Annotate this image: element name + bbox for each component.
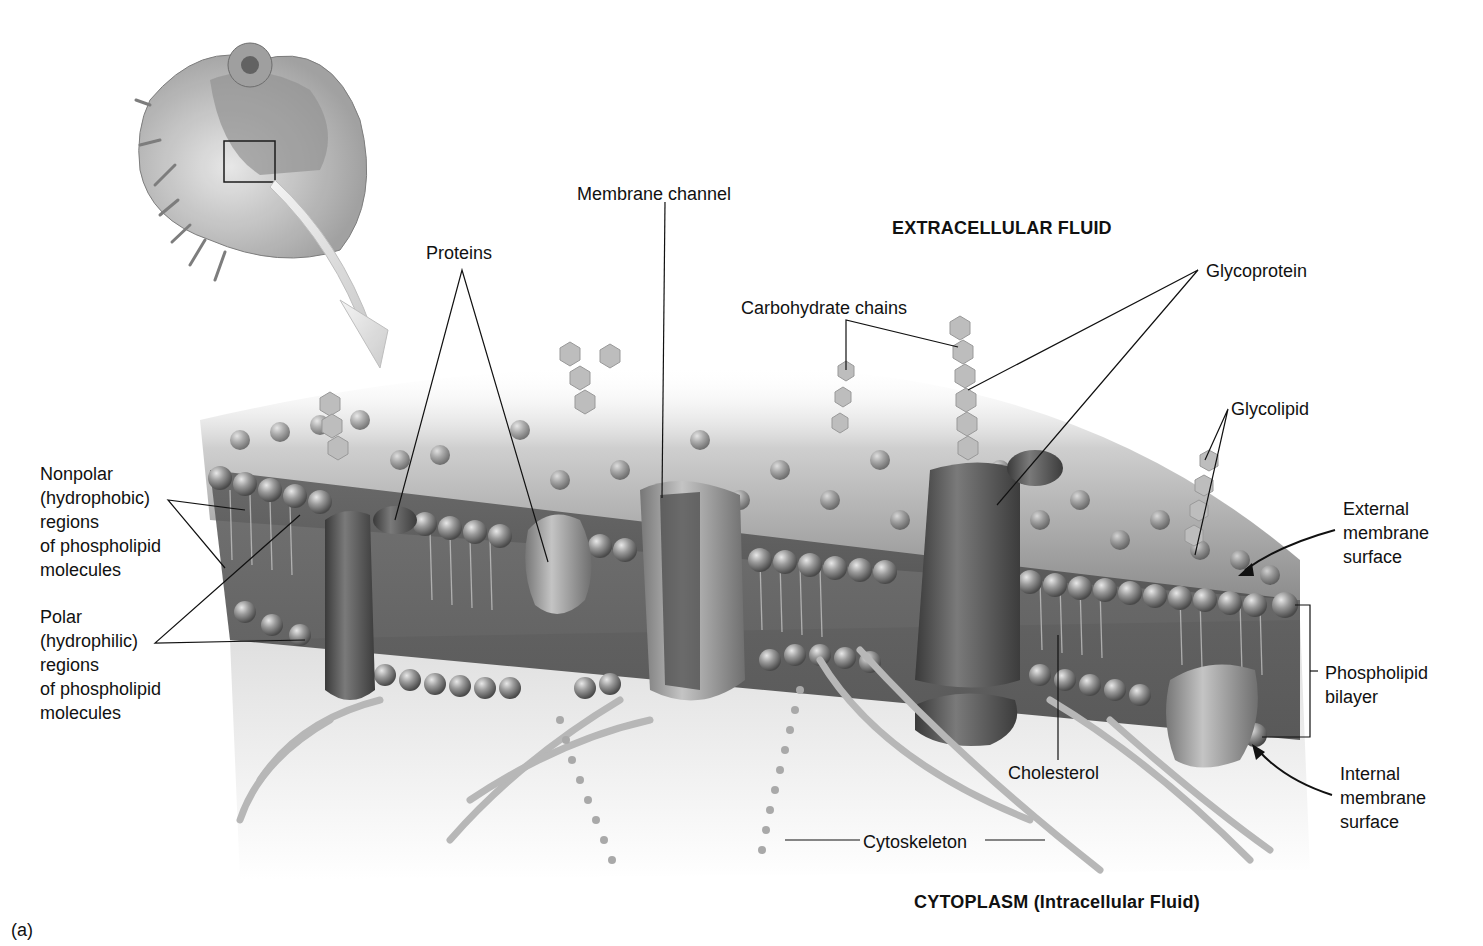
membrane-illustration [0, 0, 1483, 946]
panel-label: (a) [11, 918, 33, 942]
label-proteins: Proteins [426, 241, 492, 265]
cell-inset [136, 43, 388, 368]
label-polar-regions: Polar (hydrophilic) regions of phospholi… [40, 605, 161, 725]
cytoplasm-heading: CYTOPLASM (Intracellular Fluid) [914, 892, 1200, 913]
label-internal-membrane-surface: Internal membrane surface [1340, 762, 1426, 834]
membrane-diagram: EXTRACELLULAR FLUID CYTOPLASM (Intracell… [0, 0, 1483, 946]
label-cytoskeleton: Cytoskeleton [863, 830, 967, 854]
label-glycoprotein: Glycoprotein [1206, 259, 1307, 283]
extracellular-fluid-heading: EXTRACELLULAR FLUID [892, 218, 1112, 239]
label-membrane-channel: Membrane channel [577, 182, 731, 206]
label-nonpolar-regions: Nonpolar (hydrophobic) regions of phosph… [40, 462, 161, 582]
label-carbohydrate-chains: Carbohydrate chains [741, 296, 907, 320]
integral-protein [325, 511, 375, 700]
label-phospholipid-bilayer: Phospholipid bilayer [1325, 661, 1428, 709]
label-external-membrane-surface: External membrane surface [1343, 497, 1429, 569]
label-glycolipid: Glycolipid [1231, 397, 1309, 421]
label-cholesterol: Cholesterol [1008, 761, 1099, 785]
